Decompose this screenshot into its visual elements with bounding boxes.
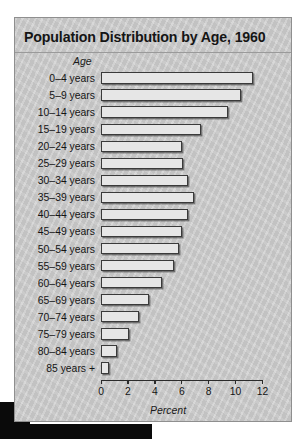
bar	[101, 362, 109, 373]
bar-category-label: 65–69 years	[15, 292, 95, 309]
screenshot-root: Population Distribution by Age, 1960 Age…	[0, 0, 308, 439]
x-axis-tick	[208, 380, 209, 385]
bar	[101, 277, 162, 288]
plot-area: 0–4 years5–9 years10–14 years15–19 years…	[15, 18, 291, 421]
x-axis-tick	[181, 380, 182, 385]
bar-row: 65–69 years	[15, 292, 291, 309]
bar-row: 55–59 years	[15, 258, 291, 275]
bar	[101, 72, 253, 83]
bar-category-label: 20–24 years	[15, 138, 95, 155]
bar-row: 30–34 years	[15, 172, 291, 189]
bar-category-label: 45–49 years	[15, 223, 95, 240]
x-axis-tick-label: 12	[257, 386, 268, 397]
bar	[101, 89, 241, 100]
bar-row: 40–44 years	[15, 206, 291, 223]
bar	[101, 260, 174, 271]
bar	[101, 141, 182, 152]
bar-row: 10–14 years	[15, 104, 291, 121]
bar	[101, 175, 188, 186]
x-axis-tick	[101, 380, 102, 385]
bar-category-label: 0–4 years	[15, 70, 95, 87]
bar-row: 35–39 years	[15, 189, 291, 206]
bar-row: 0–4 years	[15, 70, 291, 87]
page-corner-shadow-strip	[22, 424, 152, 439]
x-axis-tick-label: 0	[98, 386, 104, 397]
bar-category-label: 50–54 years	[15, 241, 95, 258]
bar-row: 70–74 years	[15, 309, 291, 326]
bar-category-label: 30–34 years	[15, 172, 95, 189]
bar	[101, 209, 188, 220]
bar-row: 80–84 years	[15, 343, 291, 360]
bar-row: 5–9 years	[15, 87, 291, 104]
x-axis-title: Percent	[15, 404, 291, 416]
bar	[101, 328, 129, 339]
bar	[101, 294, 149, 305]
bar-row: 50–54 years	[15, 241, 291, 258]
bar-category-label: 80–84 years	[15, 343, 95, 360]
x-axis-tick-label: 2	[125, 386, 131, 397]
bar-row: 85 years +	[15, 360, 291, 377]
x-axis-tick	[154, 380, 155, 385]
bar-row: 20–24 years	[15, 138, 291, 155]
bar	[101, 226, 182, 237]
bar-category-label: 75–79 years	[15, 326, 95, 343]
bar-row: 45–49 years	[15, 223, 291, 240]
bar	[101, 158, 183, 169]
x-axis-tick-label: 8	[206, 386, 212, 397]
bar-category-label: 25–29 years	[15, 155, 95, 172]
bar-category-label: 40–44 years	[15, 206, 95, 223]
bar	[101, 311, 139, 322]
bar	[101, 192, 194, 203]
bar-category-label: 5–9 years	[15, 87, 95, 104]
x-axis-tick-label: 6	[179, 386, 185, 397]
bar-category-label: 15–19 years	[15, 121, 95, 138]
bar	[101, 345, 117, 356]
bar-row: 60–64 years	[15, 275, 291, 292]
x-axis-tick-label: 10	[230, 386, 241, 397]
x-axis-tick	[235, 380, 236, 385]
bar-category-label: 55–59 years	[15, 258, 95, 275]
bar	[101, 106, 228, 117]
bar	[101, 124, 201, 135]
bar	[101, 243, 179, 254]
x-axis-tick	[127, 380, 128, 385]
bar-row: 75–79 years	[15, 326, 291, 343]
bar-row: 15–19 years	[15, 121, 291, 138]
chart-panel: Population Distribution by Age, 1960 Age…	[14, 17, 292, 422]
bar-category-label: 70–74 years	[15, 309, 95, 326]
x-axis-tick-label: 4	[152, 386, 158, 397]
bar-category-label: 85 years +	[15, 360, 95, 377]
bar-category-label: 35–39 years	[15, 189, 95, 206]
bar-category-label: 10–14 years	[15, 104, 95, 121]
bar-row: 25–29 years	[15, 155, 291, 172]
bar-category-label: 60–64 years	[15, 275, 95, 292]
x-axis-tick	[262, 380, 263, 385]
